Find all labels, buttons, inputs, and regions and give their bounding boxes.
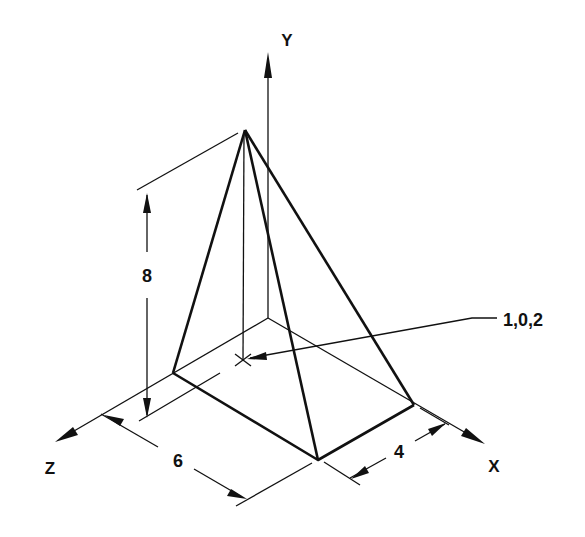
pyramid-diagram: Y X Z 8 6	[0, 0, 585, 537]
apex-projection-line	[243, 132, 244, 360]
y-axis	[264, 52, 272, 318]
y-axis-label: Y	[281, 31, 293, 50]
depth-value: 4	[394, 442, 404, 462]
x-axis-label: X	[488, 457, 500, 476]
height-dimension	[137, 133, 238, 418]
width-value: 6	[173, 451, 183, 471]
z-axis-label: Z	[45, 459, 55, 478]
callout-label: 1,0,2	[503, 310, 543, 330]
z-axis	[55, 318, 268, 442]
height-value: 8	[142, 266, 152, 286]
pyramid	[173, 130, 414, 460]
